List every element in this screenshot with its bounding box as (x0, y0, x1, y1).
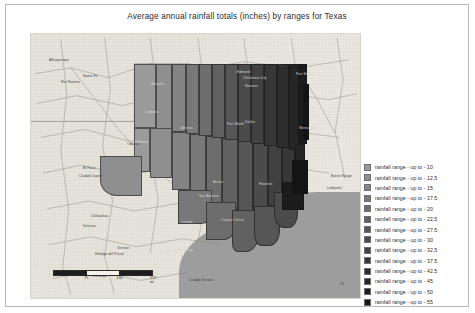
legend-color-swatch (364, 247, 371, 254)
city-label: Rio Rancho (61, 80, 80, 84)
city-label: Albuquerque (49, 58, 69, 62)
legend-item[interactable]: rainfall range - up to - 42.5 (364, 266, 468, 276)
legend-color-swatch (364, 299, 371, 306)
legend-item-label: rainfall range - up to - 17.5 (375, 195, 437, 201)
legend-item[interactable]: rainfall range - up to - 20 (364, 204, 468, 214)
city-label: Austin (213, 180, 223, 184)
scale-bar-labels: 75 150 225 mi (53, 276, 153, 284)
legend-item-label: rainfall range - up to - 10 (375, 164, 433, 170)
city-label: Lafayette (327, 186, 342, 190)
legend-item-label: rainfall range - up to - 32.5 (375, 247, 437, 253)
city-label: Laredo (181, 220, 192, 224)
legend-color-swatch (364, 236, 371, 243)
city-label: Hidalgo del Parral (95, 252, 124, 256)
legend-item[interactable]: rainfall range - up to - 17.5 (364, 193, 468, 203)
city-label: Norman (245, 84, 258, 88)
city-label: El Paso (83, 166, 95, 170)
city-label: Amarillo (151, 82, 164, 86)
city-label: Santa Fe (83, 74, 98, 78)
legend-item-label: rainfall range - up to - 27.5 (375, 227, 437, 233)
legend-item[interactable]: rainfall range - up to - 45 (364, 276, 468, 286)
scale-label-1: 75 (84, 276, 88, 280)
texas-choropleth[interactable] (134, 64, 304, 264)
city-label: Houston (259, 182, 272, 186)
city-label: Saltillo (159, 250, 170, 254)
legend-item-label: rainfall range - up to - 50 (375, 289, 433, 295)
legend-item-label: rainfall range - up to - 22.5 (375, 216, 437, 222)
city-label: Corpus Christi (221, 218, 244, 222)
legend-item[interactable]: rainfall range - up to - 55 (364, 297, 468, 307)
city-label: Ciudad Victoria (189, 278, 213, 282)
city-label: Lubbock (145, 110, 159, 114)
legend-color-swatch (364, 216, 371, 223)
legend-color-swatch (364, 184, 371, 191)
city-label: Dallas (245, 120, 255, 124)
screenshot-frame: Average annual rainfall totals (inches) … (5, 4, 469, 307)
scale-bar: 75 150 225 mi (53, 270, 153, 284)
city-label: Monterrey (177, 248, 193, 252)
city-label: Ciudad Juarez (79, 174, 102, 178)
legend-color-swatch (364, 164, 371, 171)
legend-color-swatch (364, 174, 371, 181)
city-label: Abilene (181, 126, 193, 130)
legend-item-label: rainfall range - up to - 12.5 (375, 175, 437, 181)
legend-item-label: rainfall range - up to - 37.5 (375, 258, 437, 264)
legend-item[interactable]: rainfall range - up to - 10 (364, 162, 468, 172)
legend-item[interactable]: rainfall range - up to - 50 (364, 287, 468, 297)
legend-item[interactable]: rainfall range - up to - 15 (364, 183, 468, 193)
legend-color-swatch (364, 278, 371, 285)
city-label: Edmond (237, 70, 250, 74)
legend-color-swatch (364, 195, 371, 202)
city-label: Odessa (127, 142, 139, 146)
city-label: Delicias (83, 224, 96, 228)
north-arrow-icon: N (341, 281, 344, 286)
legend-item[interactable]: rainfall range - up to - 30 (364, 235, 468, 245)
city-label: Oklahoma City (243, 76, 267, 80)
rainfall-range-legend[interactable]: rainfall range - up to - 10rainfall rang… (364, 162, 468, 307)
legend-item-label: rainfall range - up to - 30 (375, 237, 433, 243)
legend-item[interactable]: rainfall range - up to - 22.5 (364, 214, 468, 224)
legend-color-swatch (364, 226, 371, 233)
city-label: Shreveport (299, 126, 317, 130)
legend-color-swatch (364, 288, 371, 295)
legend-item[interactable]: rainfall range - up to - 37.5 (364, 256, 468, 266)
scale-label-3: 225 mi (150, 276, 156, 284)
city-label: Chihuahua (91, 214, 108, 218)
city-label: Fort Worth (227, 122, 244, 126)
legend-color-swatch (364, 257, 371, 264)
legend-item-label: rainfall range - up to - 15 (375, 185, 433, 191)
city-label: Torreon (117, 246, 129, 250)
city-label: San Antonio (199, 194, 218, 198)
legend-item[interactable]: rainfall range - up to - 27.5 (364, 224, 468, 234)
legend-item-label: rainfall range - up to - 20 (375, 206, 433, 212)
page-title: Average annual rainfall totals (inches) … (6, 12, 468, 21)
legend-item[interactable]: rainfall range - up to - 32.5 (364, 245, 468, 255)
city-label: Fort Smith (296, 72, 313, 76)
city-label: Tulsa (278, 64, 287, 68)
legend-item-label: rainfall range - up to - 42.5 (375, 268, 437, 274)
scale-label-2: 150 (117, 276, 123, 280)
map-canvas[interactable]: AlbuquerqueSanta FeRio RanchoAmarilloLub… (30, 33, 361, 299)
legend-color-swatch (364, 205, 371, 212)
legend-item-label: rainfall range - up to - 45 (375, 278, 433, 284)
legend-color-swatch (364, 268, 371, 275)
city-label: Baton Rouge (331, 174, 352, 178)
legend-item[interactable]: rainfall range - up to - 12.5 (364, 172, 468, 182)
legend-item-label: rainfall range - up to - 55 (375, 299, 433, 305)
